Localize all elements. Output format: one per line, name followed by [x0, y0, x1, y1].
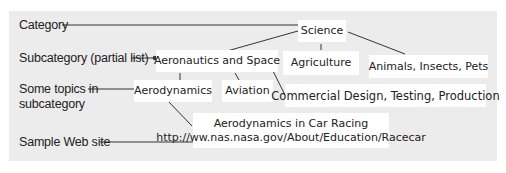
site-title: Aerodynamics in Car Racing — [214, 117, 369, 131]
site-url: http://ww.nas.nasa.gov/About/Education/R… — [156, 131, 426, 145]
label-topics-line2: subcategory — [19, 97, 85, 111]
label-sample-site: Sample Web site — [19, 135, 110, 149]
label-topics-line1: Some topics in — [19, 82, 98, 96]
node-science: Science — [298, 20, 346, 42]
node-aerodynamics: Aerodynamics — [134, 80, 212, 102]
node-sample-site: Aerodynamics in Car Racing http://ww.nas… — [193, 113, 389, 148]
label-subcategory: Subcategory (partial list) — [19, 51, 149, 65]
node-agriculture: Agriculture — [283, 51, 359, 75]
node-aviation: Aviation — [222, 80, 273, 102]
label-category: Category — [19, 18, 68, 32]
node-animals: Animals, Insects, Pets — [369, 55, 488, 78]
node-commercial: Commercial Design, Testing, Production — [285, 84, 486, 107]
node-aeronautics: Aeronautics and Space — [156, 50, 278, 72]
